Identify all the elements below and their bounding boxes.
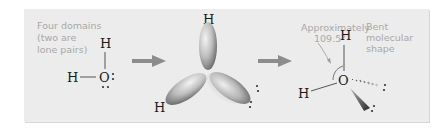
- arrow-right-icon: [258, 55, 292, 67]
- shape-label-line-2: molecular: [366, 32, 413, 43]
- arrow-right-icon: [132, 55, 166, 67]
- bond-diagonal: [311, 83, 337, 91]
- atom-h-top: H: [100, 36, 111, 51]
- caption-line-1: Four domains: [37, 20, 101, 31]
- hashed-bond: [352, 79, 377, 86]
- electron-domain-lobes: H H: [154, 12, 259, 115]
- lewis-structure: Four domains (two are lone pairs) H H O: [37, 20, 114, 88]
- lobe-h-left: H: [154, 100, 165, 115]
- atom-o: O: [338, 73, 349, 88]
- angle-label-line-1: Approximately: [301, 22, 370, 33]
- atom-h-top: H: [340, 28, 351, 43]
- caption-line-3: lone pairs): [37, 44, 87, 55]
- caption-line-2: (two are: [37, 32, 77, 43]
- lobe-top: [199, 22, 217, 70]
- bent-molecule: Approximately 109.5° H O H Bent molecula…: [298, 21, 413, 112]
- shape-label-line-3: shape: [366, 43, 395, 54]
- atom-o: O: [99, 70, 110, 85]
- angle-pointer: [318, 43, 329, 61]
- atom-h-left: H: [298, 86, 309, 101]
- vsepr-water-diagram: Four domains (two are lone pairs) H H O …: [0, 0, 446, 131]
- shape-label-line-1: Bent: [366, 21, 388, 32]
- wedge-bond: [350, 88, 370, 111]
- atom-h-left: H: [67, 70, 78, 85]
- lobe-bottom-left: [161, 67, 212, 111]
